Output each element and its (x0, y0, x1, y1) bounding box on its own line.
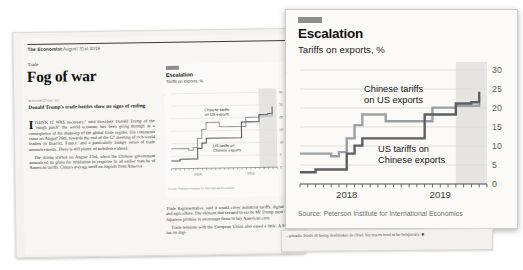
chart-svg: 05101520253020182019ForecastChinese tari… (286, 58, 517, 210)
chart-tag-marker (298, 17, 322, 23)
chart-plot-area: 05101520253020182019ForecastChinese tari… (286, 58, 517, 210)
y-axis-tick-label: 5 (492, 160, 497, 170)
mini-chart-plot: 05101520253020182019ForecastChinese tari… (164, 83, 294, 185)
article-headline: Fog of war (27, 67, 97, 86)
article-column-left: ITHINK IT WAS necessary," said President… (29, 118, 156, 173)
y-axis-tick-label: 15 (492, 122, 502, 132)
series-annotation-us-tariffs: Chinese exports (378, 155, 446, 165)
mini-chart-tag (166, 66, 179, 70)
article-paragraph: Trade tensions with the European Union a… (166, 222, 294, 235)
article-dateline: WASHINGTON, DC (28, 99, 60, 103)
chart-title: Escalation (298, 26, 363, 41)
series-annotation-chinese-tariffs: on US exports (205, 111, 230, 116)
inline-mini-chart: Escalation Tariffs on exports, % 0510152… (164, 62, 294, 198)
forecast-band (258, 88, 277, 167)
article-paragraph: The drama started on August 23rd, when t… (29, 153, 155, 171)
y-axis-tick-label: 0 (280, 165, 282, 169)
screenshot-root: The Economist August 31st 2019 Trade Fog… (0, 0, 523, 270)
x-axis-tick-label: 2018 (194, 172, 202, 176)
article-paragraph-text: Trade tensions with the European Union a… (166, 222, 294, 234)
page-note-strip: ...poradic bouts of being dealmaker-in-c… (281, 228, 493, 252)
x-axis-tick-label: 2019 (430, 189, 451, 200)
y-axis-tick-label: 25 (492, 84, 502, 94)
article-paragraph: ITHINK IT WAS necessary," said President… (29, 118, 155, 152)
y-axis-tick-label: 20 (492, 103, 502, 113)
chart-subtitle: Tariffs on exports, % (298, 44, 385, 55)
y-axis-tick-label: 15 (279, 127, 283, 131)
forecast-band (456, 62, 487, 184)
mini-chart-subtitle: Tariffs on exports, % (166, 76, 292, 83)
article-paragraph-text: Trade Representative, said it would cove… (166, 204, 294, 222)
article-paragraph: Trade Representative, said it would cove… (166, 204, 294, 222)
series-annotation-chinese-tariffs: on US exports (364, 95, 423, 105)
x-axis-tick-label: 2019 (247, 171, 255, 175)
y-axis-tick-label: 0 (492, 179, 497, 189)
article-kicker: Trade (28, 62, 39, 67)
y-axis-tick-label: 20 (279, 115, 283, 119)
x-axis-tick-label: 2018 (336, 189, 357, 200)
y-axis-tick-label: 30 (279, 90, 283, 94)
y-axis-tick-label: 5 (280, 152, 282, 156)
y-axis-tick-label: 10 (279, 140, 283, 144)
article-paragraph-text: The drama started on August 23rd, when t… (29, 153, 155, 171)
y-axis-tick-label: 30 (492, 65, 502, 75)
chart-source: Source: Peterson Institute for Internati… (298, 210, 463, 217)
magazine-page-inner: The Economist August 31st 2019 Trade Fog… (21, 34, 300, 255)
series-annotation-us-tariffs: Chinese exports (213, 147, 241, 152)
series-annotation-chinese-tariffs: Chinese tariffs (364, 84, 424, 94)
y-axis-tick-label: 10 (492, 141, 502, 151)
magazine-page-scan: The Economist August 31st 2019 Trade Fog… (12, 28, 306, 259)
mini-chart-svg: 05101520253020182019ForecastChinese tari… (164, 83, 294, 185)
escalation-chart-card: Escalation Tariffs on exports, % 0510152… (285, 9, 518, 229)
y-axis-tick-label: 25 (279, 102, 283, 106)
article-paragraph-text: THINK IT WAS necessary," said President … (29, 118, 155, 152)
masthead-date: August 31st 2019 (63, 46, 100, 52)
article-column-right: Trade Representative, said it would cove… (166, 204, 294, 238)
forecast-label: Forecast (286, 65, 287, 75)
article-standfirst: Donald Trump's trade battles show no sig… (28, 102, 154, 111)
masthead-title: The Economist (27, 47, 61, 53)
series-annotation-us-tariffs: US tariffs on (378, 144, 429, 154)
magazine-masthead: The Economist August 31st 2019 (27, 40, 289, 52)
